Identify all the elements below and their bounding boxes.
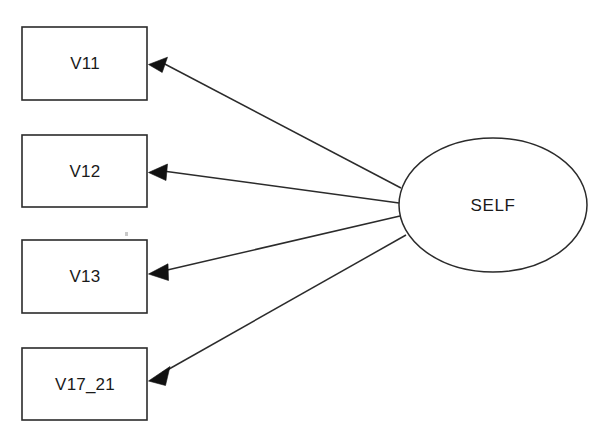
- path-line-self-v11: [160, 62, 401, 189]
- diagram-canvas: V11 V12 V13 V17_21 SELF: [0, 0, 612, 446]
- path-self-to-v12[interactable]: [149, 164, 400, 203]
- node-label-v17_21: V17_21: [55, 375, 115, 394]
- path-diagram: V11 V12 V13 V17_21 SELF: [0, 0, 612, 446]
- node-self[interactable]: SELF: [399, 138, 587, 272]
- node-label-v11: V11: [70, 54, 100, 73]
- node-label-v12: V12: [70, 162, 101, 181]
- path-line-self-v17_21: [162, 235, 406, 373]
- scan-speck: [125, 232, 128, 236]
- arrowhead-v12: [149, 164, 168, 181]
- arrowhead-v13: [149, 264, 169, 281]
- path-line-self-v12: [163, 171, 399, 203]
- node-label-v13: V13: [70, 267, 101, 286]
- node-label-self: SELF: [471, 196, 516, 215]
- path-self-to-v11[interactable]: [149, 57, 402, 188]
- path-group: [149, 57, 407, 385]
- indicator-group: V11 V12 V13 V17_21: [22, 27, 147, 420]
- arrowhead-v17_21: [149, 367, 171, 386]
- node-v13[interactable]: V13: [22, 240, 147, 313]
- path-self-to-v17_21[interactable]: [149, 235, 407, 386]
- path-self-to-v13[interactable]: [149, 216, 401, 281]
- arrowhead-v11: [149, 57, 168, 72]
- node-v17_21[interactable]: V17_21: [22, 348, 147, 420]
- node-v12[interactable]: V12: [22, 135, 147, 207]
- path-line-self-v13: [163, 216, 400, 271]
- node-v11[interactable]: V11: [22, 27, 147, 100]
